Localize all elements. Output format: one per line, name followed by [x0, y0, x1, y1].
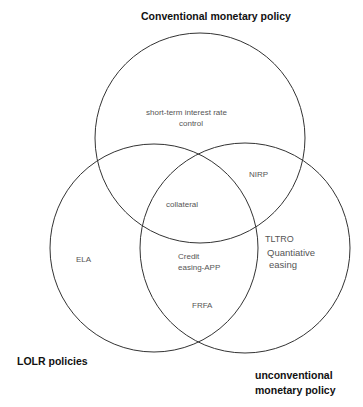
region-label-collateral: collateral [166, 199, 198, 210]
set-title-lolr: LOLR policies [17, 354, 88, 369]
region-label-ela: ELA [76, 254, 91, 265]
set-title-conventional: Conventional monetary policy [141, 9, 291, 24]
circle-unconventional [140, 143, 350, 353]
region-label-credit-line1: Credit [178, 251, 199, 262]
set-title-unconventional-line1: unconventional [255, 368, 333, 383]
set-title-unconventional-line2: monetary policy [255, 383, 336, 398]
region-label-frfa: FRFA [192, 300, 212, 311]
region-label-qe-line2: easing [269, 259, 297, 270]
circle-lolr [50, 144, 258, 352]
region-label-credit-line2: easing-APP [178, 262, 220, 273]
region-label-nirp: NIRP [249, 169, 268, 180]
region-label-conventional-line1: short-term interest rate [146, 107, 227, 118]
region-label-conventional-line2: control [179, 118, 203, 129]
region-label-tltro: TLTRO [265, 234, 294, 245]
circle-conventional [95, 33, 305, 243]
region-label-qe-line1: Quantiative [267, 247, 315, 258]
